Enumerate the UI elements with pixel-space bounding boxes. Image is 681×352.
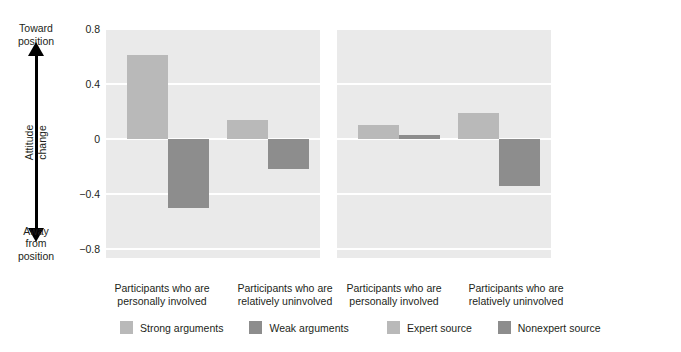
legend-item-weak-arguments: Weak arguments	[249, 321, 348, 334]
bar-left-involved-weak	[168, 139, 209, 208]
x-label-line1: Participants who are	[468, 282, 563, 294]
gridline-0.8	[106, 28, 320, 30]
bar-right-involved-expert	[358, 125, 399, 139]
legend-swatch-icon	[120, 321, 133, 334]
y-tick-0.8: 0.8	[66, 23, 100, 35]
bar-left-uninvolved-strong	[227, 120, 268, 139]
away-line3: position	[18, 250, 54, 262]
legend-label: Weak arguments	[269, 322, 348, 334]
y-axis-title-line1: Attitude	[23, 124, 36, 160]
away-line2: from	[26, 237, 47, 249]
away-line1: Away	[23, 225, 49, 237]
bar-left-uninvolved-weak	[268, 139, 309, 169]
x-label-line1: Participants who are	[237, 282, 332, 294]
legend-label: Strong arguments	[140, 322, 223, 334]
y-axis-title-line2: change	[36, 124, 49, 160]
legend-label: Expert source	[407, 322, 472, 334]
gridline--0.4	[106, 193, 320, 195]
y-tick-0: 0	[66, 133, 100, 145]
legend-label: Nonexpert source	[518, 322, 601, 334]
bar-right-uninvolved-nonexpert	[499, 139, 540, 186]
away-from-position-label: Away from position	[0, 225, 72, 263]
chart-panel-right	[337, 29, 551, 258]
gridline-0.4	[337, 83, 551, 85]
bar-right-involved-nonexpert	[399, 135, 440, 139]
legend-item-strong-arguments: Strong arguments	[120, 321, 223, 334]
legend-item-expert-source: Expert source	[387, 321, 472, 334]
gridline--0.8	[337, 248, 551, 250]
x-label-line2: personally involved	[117, 295, 206, 307]
gridline-0.8	[337, 28, 551, 30]
x-label-line1: Participants who are	[346, 282, 441, 294]
x-group-label-right-involved: Participants who are personally involved	[331, 282, 457, 308]
gridline--0.4	[337, 193, 551, 195]
legend-swatch-icon	[498, 321, 511, 334]
gridline--0.8	[106, 248, 320, 250]
arrow-up-icon	[28, 42, 44, 56]
x-group-label-left-uninvolved: Participants who are relatively uninvolv…	[222, 282, 348, 308]
legend-swatch-icon	[387, 321, 400, 334]
legend-swatch-icon	[249, 321, 262, 334]
x-group-label-left-involved: Participants who are personally involved	[99, 282, 225, 308]
legend-item-nonexpert-source: Nonexpert source	[498, 321, 601, 334]
chart-panel-left	[106, 29, 320, 258]
bar-right-uninvolved-expert	[458, 113, 499, 139]
bar-left-involved-strong	[127, 55, 168, 139]
x-label-line2: relatively uninvolved	[469, 295, 564, 307]
y-tick--0.8: −0.8	[66, 243, 100, 255]
x-label-line2: relatively uninvolved	[238, 295, 333, 307]
figure: Toward position Attitude change Away fro…	[0, 0, 681, 352]
legend-right: Expert source Nonexpert source	[387, 321, 627, 334]
y-tick-0.4: 0.4	[66, 78, 100, 90]
y-tick--0.4: −0.4	[66, 188, 100, 200]
x-label-line2: personally involved	[349, 295, 438, 307]
toward-line1: Toward	[19, 22, 53, 34]
x-group-label-right-uninvolved: Participants who are relatively uninvolv…	[453, 282, 579, 308]
legend-left: Strong arguments Weak arguments	[120, 321, 375, 334]
x-label-line1: Participants who are	[114, 282, 209, 294]
attitude-change-axis-annotation: Toward position Attitude change Away fro…	[0, 22, 72, 262]
y-axis-title: Attitude change	[0, 115, 72, 169]
